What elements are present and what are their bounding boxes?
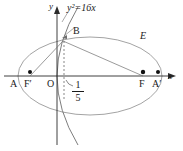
parabola-equation-label: y²=16x [67, 3, 96, 13]
point-label-f: F [139, 79, 145, 89]
ellipse-label: E [140, 31, 146, 41]
fraction-denominator: 5 [72, 93, 84, 103]
point-dot-f-prime [28, 70, 32, 74]
point-label-o: O [47, 79, 54, 89]
point-label-a: A [10, 79, 17, 89]
x-axis-label: x [168, 72, 172, 81]
point-label-a-prime: A′ [152, 79, 161, 89]
point-label-f-prime: F′ [24, 79, 32, 89]
point-dot-a-prime [156, 70, 160, 74]
geometry-figure: y x y²=16x E B A F′ O F A′ 1 5 [0, 0, 183, 151]
y-axis-label: y [49, 2, 53, 11]
y-axis-arrow-icon [54, 6, 60, 14]
fraction-numerator: 1 [72, 80, 84, 90]
parabola-label-leader [62, 12, 68, 22]
figure-canvas [0, 0, 183, 151]
segment-b-to-f [63, 41, 143, 76]
point-label-b: B [73, 26, 80, 36]
point-dot-f [141, 70, 145, 74]
measure-fraction-one-fifth: 1 5 [72, 80, 84, 103]
